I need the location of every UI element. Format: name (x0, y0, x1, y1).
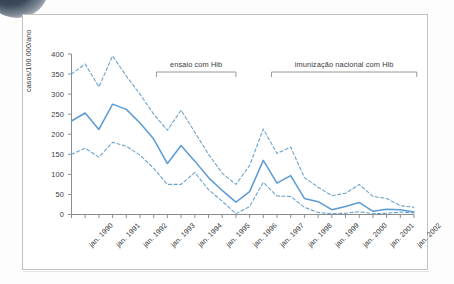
y-axis-tick-label: 150 (40, 150, 64, 159)
series-line (72, 142, 415, 213)
series-line (72, 104, 415, 212)
y-axis-tick-label: 100 (40, 170, 64, 179)
annotation-bracket (156, 72, 235, 77)
y-axis-tick-label: 400 (40, 50, 64, 59)
x-axis-ticks (72, 215, 415, 219)
y-axis-tick-label: 300 (40, 90, 64, 99)
y-axis-tick-label: 350 (40, 70, 64, 79)
line-chart: casos/100.000/ano 0501001502002503003504… (0, 0, 454, 284)
annotation-brackets (156, 72, 416, 77)
y-axis-tick-label: 200 (40, 130, 64, 139)
figure-page: casos/100.000/ano 0501001502002503003504… (0, 0, 454, 284)
y-axis-ticks (68, 54, 72, 215)
series-line (72, 56, 415, 207)
y-axis-tick-label: 50 (40, 190, 64, 199)
annotation-bracket (272, 72, 417, 77)
annotation-label: imunização nacional com Hib (295, 60, 394, 69)
chart-series-group (72, 56, 415, 214)
y-axis-label: casos/100.000/ano (24, 30, 33, 92)
y-axis-tick-label: 0 (40, 210, 64, 219)
chart-axes (68, 54, 414, 218)
annotation-label: ensaio com Hib (170, 60, 222, 69)
y-axis-tick-label: 250 (40, 110, 64, 119)
